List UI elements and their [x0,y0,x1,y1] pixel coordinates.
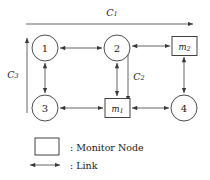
legend: : Monitor Node : Link [30,138,144,171]
legend-monitor-node-text: : Monitor Node [70,142,144,153]
monitor-node-m2-label-subscript: 2 [185,45,190,53]
cycle-c1-label-subscript: 1 [114,10,118,18]
node-3[interactable]: 3 [32,95,58,121]
cycle-c2-label: C2 [133,71,144,83]
legend-monitor-node-swatch [35,138,59,155]
cycle-c3-label-subscript: 3 [15,72,19,80]
network-topology-figure: C1 C3 C2 [0,0,210,180]
monitor-node-m1-label-subscript: 1 [119,107,123,115]
node-4-label: 4 [181,103,187,114]
monitor-node-m2[interactable]: m2 [172,37,197,56]
monitor-node-m1[interactable]: m1 [105,99,130,118]
monitor-node-m1-label-base: m [111,104,119,114]
node-2[interactable]: 2 [104,35,130,61]
node-3-label: 3 [42,103,48,114]
cycle-c2-label-subscript: 2 [140,74,145,82]
cycle-c3-label: C3 [7,69,18,81]
node-4[interactable]: 4 [171,95,197,121]
diagram-canvas: C1 C3 C2 [0,0,210,180]
node-1-label: 1 [42,43,48,54]
monitor-node-m2-label-base: m [178,42,186,52]
legend-link-text: : Link [70,160,98,171]
legend-item-monitor-node: : Monitor Node [35,138,144,155]
cycle-c1-label: C1 [106,7,117,19]
legend-item-link: : Link [30,160,98,171]
node-1[interactable]: 1 [32,35,58,61]
node-2-label: 2 [114,43,120,54]
